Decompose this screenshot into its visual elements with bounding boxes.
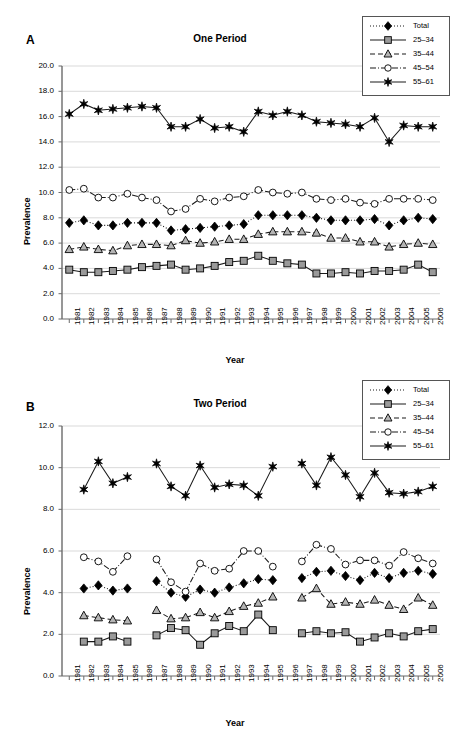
circle-icon — [366, 61, 410, 75]
diamond-icon — [366, 383, 410, 397]
panel-a-x-tick-label: 2004 — [407, 307, 416, 325]
diamond-icon — [366, 19, 410, 33]
panel-a-x-axis-label: Year — [35, 355, 435, 365]
panel-b-x-tick-label: 1998 — [320, 664, 329, 682]
panel-a-x-tick-label: 1997 — [305, 307, 314, 325]
panel-b-y-tick-label: 12.0 — [24, 421, 54, 430]
panel-a-x-tick-label: 2001 — [364, 307, 373, 325]
panel-a-x-tick-label: 2006 — [436, 307, 445, 325]
panel-a-x-tick-label: 1986 — [145, 307, 154, 325]
panel-a-legend-item-45-54: 45–54 — [366, 61, 446, 75]
panel-a-legend-label: 55–61 — [410, 75, 434, 89]
panel-b-legend-label: Total — [410, 383, 429, 397]
panel-b-series-25-34 — [84, 615, 433, 645]
panel-a-markers-25-34 — [66, 252, 436, 277]
panel-b-x-tick-label: 1992 — [233, 664, 242, 682]
panel-a-legend-label: 25–34 — [410, 33, 434, 47]
panel-a-markers-45-54 — [66, 185, 436, 215]
panel-b-x-tick-label: 1987 — [160, 664, 169, 682]
panel-a-y-tick-label: 4.0 — [24, 263, 54, 272]
panel-b-y-tick-label: 2.0 — [24, 629, 54, 638]
panel-b-y-tick-label: 0.0 — [24, 671, 54, 680]
panel-b-markers-45-54 — [80, 541, 436, 595]
panel-a-x-tick-label: 1983 — [102, 307, 111, 325]
panel-a-y-tick-label: 0.0 — [24, 314, 54, 323]
panel-a-y-tick-label: 6.0 — [24, 238, 54, 247]
panel-a-x-tick-label: 1996 — [291, 307, 300, 325]
panel-a-legend-label: Total — [410, 19, 429, 33]
panel-b-legend-label: 25–34 — [410, 397, 434, 411]
figure-root: A One Period Prevalence Year Total25–343… — [0, 0, 453, 734]
panel-a-markers-55-61 — [65, 99, 437, 146]
panel-a-x-tick-label: 1991 — [218, 307, 227, 325]
square-icon — [366, 33, 410, 47]
star-icon — [366, 75, 410, 89]
panel-b-x-tick-label: 1988 — [175, 664, 184, 682]
panel-a-x-tick-label: 1990 — [204, 307, 213, 325]
panel-a-y-tick-label: 18.0 — [24, 86, 54, 95]
panel-a-y-tick-label: 12.0 — [24, 162, 54, 171]
panel-b-x-tick-label: 1981 — [73, 664, 82, 682]
panel-a-x-tick-label: 2000 — [349, 307, 358, 325]
panel-a-x-tick-label: 1989 — [189, 307, 198, 325]
panel-a-y-tick-label: 8.0 — [24, 213, 54, 222]
panel-a-y-tick-label: 20.0 — [24, 61, 54, 70]
panel-b-x-tick-label: 2002 — [378, 664, 387, 682]
panel-a-y-tick-label: 2.0 — [24, 289, 54, 298]
panel-b-legend-item-55-61: 55–61 — [366, 439, 446, 453]
panel-b-x-tick-label: 2005 — [422, 664, 431, 682]
panel-b-legend-label: 45–54 — [410, 425, 434, 439]
triangle-icon — [366, 47, 410, 61]
panel-a-x-tick-label: 2003 — [393, 307, 402, 325]
panel-a-x-tick-label: 1982 — [87, 307, 96, 325]
panel-b-x-axis-label: Year — [35, 718, 435, 728]
panel-b-x-tick-label: 1990 — [204, 664, 213, 682]
panel-a-markers-35-44 — [65, 227, 437, 254]
panel-a-y-tick-label: 14.0 — [24, 137, 54, 146]
panel-a-x-tick-label: 1984 — [116, 307, 125, 325]
panel-b-y-tick-label: 8.0 — [24, 504, 54, 513]
panel-a-x-tick-label: 1992 — [233, 307, 242, 325]
panel-b-x-tick-label: 1984 — [116, 664, 125, 682]
panel-b-markers-total — [80, 566, 436, 601]
panel-a-x-tick-label: 1987 — [160, 307, 169, 325]
star-icon — [366, 439, 410, 453]
panel-b-x-tick-label: 1993 — [247, 664, 256, 682]
panel-b-x-tick-label: 1997 — [305, 664, 314, 682]
circle-icon — [366, 425, 410, 439]
panel-a-x-tick-label: 1999 — [334, 307, 343, 325]
panel-b-legend-item-45-54: 45–54 — [366, 425, 446, 439]
panel-a-legend-label: 45–54 — [410, 61, 434, 75]
panel-b-x-tick-label: 1982 — [87, 664, 96, 682]
panel-a: A One Period Prevalence Year Total25–343… — [0, 0, 453, 370]
panel-a-legend-item-35-44: 35–44 — [366, 47, 446, 61]
panel-a-legend-item-total: Total — [366, 19, 446, 33]
panel-b-markers-25-34 — [80, 611, 436, 648]
panel-b-legend-item-35-44: 35–44 — [366, 411, 446, 425]
panel-b-legend-label: 35–44 — [410, 411, 434, 425]
panel-b-y-tick-label: 6.0 — [24, 546, 54, 555]
panel-a-legend-label: 35–44 — [410, 47, 434, 61]
panel-b-x-tick-label: 1991 — [218, 664, 227, 682]
panel-b-x-tick-label: 2001 — [364, 664, 373, 682]
panel-b-x-tick-label: 2006 — [436, 664, 445, 682]
panel-a-x-tick-label: 1985 — [131, 307, 140, 325]
panel-b-x-tick-label: 1986 — [145, 664, 154, 682]
panel-b-legend-label: 55–61 — [410, 439, 434, 453]
panel-b-x-tick-label: 1999 — [334, 664, 343, 682]
panel-b-x-tick-label: 1995 — [276, 664, 285, 682]
square-icon — [366, 397, 410, 411]
panel-a-markers-total — [65, 211, 436, 235]
panel-b-x-tick-label: 1989 — [189, 664, 198, 682]
panel-b-x-tick-label: 2003 — [393, 664, 402, 682]
panel-b-y-tick-label: 10.0 — [24, 463, 54, 472]
panel-b-x-tick-label: 2004 — [407, 664, 416, 682]
panel-a-legend-item-55-61: 55–61 — [366, 75, 446, 89]
panel-a-legend: Total25–3435–4445–5455–61 — [362, 16, 450, 96]
panel-a-x-tick-label: 1998 — [320, 307, 329, 325]
panel-a-x-tick-label: 1993 — [247, 307, 256, 325]
panel-a-x-tick-label: 2005 — [422, 307, 431, 325]
panel-b-x-tick-label: 1994 — [262, 664, 271, 682]
panel-a-y-tick-label: 10.0 — [24, 188, 54, 197]
panel-b: B Two Period Prevalence Year Total25–343… — [0, 370, 453, 734]
